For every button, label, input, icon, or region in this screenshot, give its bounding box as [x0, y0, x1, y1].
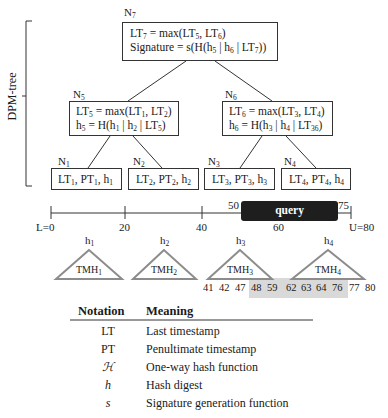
node-label-n2: N2: [133, 155, 145, 167]
legend-meaning-s: Signature generation function: [146, 396, 289, 411]
legend-symbol-s: s: [88, 396, 128, 411]
query-label: query: [275, 204, 304, 216]
tmh2-hash: h2: [160, 234, 169, 246]
node-label-n6: N6: [225, 88, 237, 100]
timestamp-47: 47: [235, 282, 246, 293]
query-end-label: 75: [338, 199, 349, 211]
tmh3-hash: h3: [236, 234, 245, 246]
tick-40: 40: [196, 221, 207, 233]
legend-meaning-hash-fn: One-way hash function: [146, 360, 258, 375]
dpm-tree-label-text: DPM-tree: [5, 73, 19, 121]
n7-line1: LT7 = max(LT5, LT6): [130, 26, 277, 40]
n6-line2: h6 = H(h3 | h4 | LT36): [229, 118, 332, 132]
node-label-n5: N5: [73, 88, 85, 100]
tick-20: 20: [119, 221, 130, 233]
timestamp-64: 64: [316, 282, 327, 293]
n7-line2: Signature = s(H(h5 | h6 | LT7)): [130, 40, 277, 54]
timestamp-48: 48: [251, 282, 262, 293]
legend-symbol-lt: LT: [88, 324, 128, 339]
node-n6: LT6 = max(LT3, LT4) h6 = H(h3 | h4 | LT3…: [222, 101, 333, 136]
dpm-tree-label: DPM-tree: [5, 67, 20, 127]
timestamp-80: 80: [365, 282, 376, 293]
n6-line1: LT6 = max(LT3, LT4): [229, 104, 332, 118]
legend-header-meaning: Meaning: [146, 304, 193, 319]
tmh2-label: TMH2: [151, 264, 177, 275]
node-n7: LT7 = max(LT5, LT6) Signature = s(H(h5 |…: [122, 22, 278, 61]
timestamp-41: 41: [203, 282, 214, 293]
timestamp-62: 62: [286, 282, 297, 293]
tick-60: 60: [273, 221, 284, 233]
timestamp-63: 63: [301, 282, 312, 293]
query-bar: query: [241, 201, 338, 221]
legend-meaning-pt: Penultimate timestamp: [146, 342, 256, 357]
node-n4: LT4, PT4, h4: [281, 168, 351, 190]
tmh4-label: TMH4: [315, 264, 341, 275]
legend-meaning-lt: Last timestamp: [146, 324, 220, 339]
node-label-n1: N1: [58, 155, 70, 167]
node-n5: LT5 = max(LT1, LT2) h5 = H(h1 | h2 | LT5…: [69, 101, 179, 136]
tick-0: L=0: [36, 221, 54, 233]
legend-symbol-h: h: [88, 378, 128, 393]
node-label-n3: N3: [208, 155, 220, 167]
node-n3: LT3, PT3, h3: [204, 168, 275, 190]
legend-meaning-h: Hash digest: [146, 378, 202, 393]
tick-80: U=80: [349, 221, 374, 233]
timestamp-76: 76: [332, 282, 343, 293]
tmh1-hash: h1: [85, 234, 94, 246]
timestamp-77: 77: [349, 282, 360, 293]
legend-symbol-pt: PT: [88, 342, 128, 357]
legend-header-notation: Notation: [78, 304, 125, 319]
tmh3-label: TMH3: [227, 264, 253, 275]
legend-symbol-hash-fn: ℋ: [88, 360, 128, 375]
node-n1: LT1, PT1, h1: [51, 168, 122, 190]
timestamp-59: 59: [267, 282, 278, 293]
n5-line1: LT5 = max(LT1, LT2): [76, 104, 178, 118]
node-n2: LT2, PT2, h2: [128, 168, 199, 190]
node-label-n7: N7: [124, 6, 136, 18]
query-start-label: 50: [228, 199, 239, 211]
tmh4-hash: h4: [324, 234, 333, 246]
node-label-n4: N4: [284, 155, 296, 167]
timestamp-42: 42: [219, 282, 230, 293]
tmh1-label: TMH1: [76, 264, 102, 275]
n5-line2: h5 = H(h1 | h2 | LT5): [76, 118, 178, 132]
